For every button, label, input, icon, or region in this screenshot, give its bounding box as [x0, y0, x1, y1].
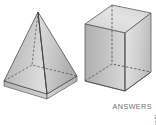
rectangular-prism-figure	[82, 2, 154, 102]
answers-line: (a) Three times (b) 1 3	[154, 113, 156, 124]
answers-block: ANSWERS (a) Three times (b) 1 3	[0, 103, 156, 125]
answer-fraction-b: 1 3	[154, 113, 156, 124]
fraction-denominator: 3	[154, 113, 156, 118]
prism-left-face	[85, 24, 125, 91]
fraction-numerator: 1	[154, 119, 156, 124]
geometry-figure-area	[0, 0, 156, 104]
figure-page: ANSWERS (a) Three times (b) 1 3	[0, 0, 156, 125]
square-pyramid-figure	[2, 4, 80, 102]
answers-heading: ANSWERS	[113, 103, 153, 111]
answer-item-b: (b) 1 3	[154, 116, 156, 123]
